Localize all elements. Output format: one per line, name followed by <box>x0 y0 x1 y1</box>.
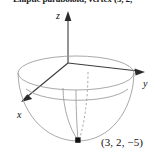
y-axis-line <box>68 63 138 71</box>
x-axis-line <box>28 63 68 96</box>
vertex-coordinate-label: (3, 2, −5) <box>101 136 143 148</box>
surface-cross-section-arc <box>26 89 128 100</box>
y-axis-label: y <box>143 79 147 89</box>
z-axis-label: z <box>56 11 60 21</box>
surface-top-rim-ellipse <box>18 56 134 90</box>
surface-trace-hidden-dashed <box>79 72 88 140</box>
x-axis-label: x <box>17 110 21 120</box>
y-axis-arrowhead <box>135 69 146 76</box>
surface-trace-front <box>76 90 78 140</box>
figure-panel: Elliptic paraboloid, vertex (3, 2, <box>0 0 163 159</box>
surface-left-silhouette <box>18 73 78 141</box>
vertex-point-marker <box>75 137 80 142</box>
surface-right-silhouette <box>78 73 134 141</box>
z-axis-arrowhead <box>65 11 72 21</box>
